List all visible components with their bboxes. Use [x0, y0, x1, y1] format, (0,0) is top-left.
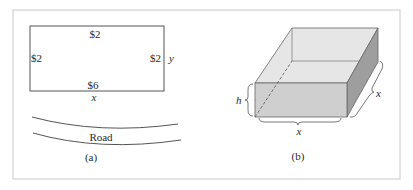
panel-b: h x x (b)	[236, 28, 383, 163]
caption-a: (a)	[85, 151, 98, 164]
width-brace	[259, 118, 341, 125]
right-side-cost: $2	[150, 52, 161, 64]
panel-a: $2 $2 $2 y $6 x Road (a)	[30, 26, 181, 164]
left-side-cost: $2	[31, 52, 42, 64]
top-side-cost: $2	[90, 28, 101, 40]
box-front-face	[255, 83, 347, 117]
height-label-y: y	[168, 52, 174, 64]
road-label: Road	[89, 131, 113, 143]
road-edge-upper	[32, 117, 178, 128]
figure: $2 $2 $2 y $6 x Road (a) h x x (b)	[0, 0, 413, 190]
width-label-x: x	[296, 125, 302, 137]
depth-label-x: x	[375, 87, 381, 99]
height-brace	[245, 84, 253, 116]
caption-b: (b)	[292, 150, 305, 163]
width-label-x: x	[91, 91, 97, 103]
height-label-h: h	[236, 94, 242, 106]
bottom-side-cost: $6	[88, 79, 100, 91]
